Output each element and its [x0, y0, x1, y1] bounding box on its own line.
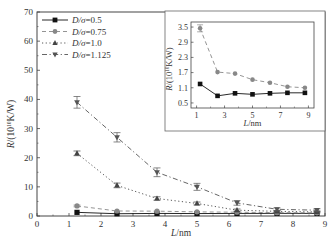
circle-marker	[233, 71, 238, 76]
y-label-unit: K/W)	[6, 100, 17, 122]
circle-marker	[285, 84, 290, 89]
y-tick-label: 70	[24, 7, 34, 17]
inset-frame	[165, 11, 325, 131]
legend-var: D/σ	[71, 15, 86, 25]
inset-x-axis-label: L/nm	[243, 118, 262, 128]
triangle-down-marker	[194, 185, 200, 190]
x-tick-label: 4	[163, 219, 168, 229]
legend-value: =0.75	[85, 27, 106, 37]
legend-value: =1.0	[85, 38, 102, 48]
x-tick-label: 2	[99, 219, 104, 229]
square-marker	[53, 18, 58, 23]
x-tick-label: 3	[131, 219, 136, 229]
inset-y-tick-label: 1.7	[178, 68, 188, 77]
triangle-up-marker	[234, 207, 240, 212]
x-tick-label: 5	[195, 219, 200, 229]
legend: D/σ=0.5D/σ=0.75D/σ=1.0D/σ=1.125	[42, 15, 111, 60]
legend-label: D/σ=1.125	[71, 50, 111, 60]
x-tick-label: 9	[323, 219, 328, 229]
triangle-up-marker	[194, 200, 200, 205]
circle-marker	[74, 203, 79, 208]
y-label-base: 10	[6, 127, 16, 137]
inset-x-tick-label: 9	[306, 111, 310, 120]
circle-marker	[114, 208, 119, 213]
square-marker	[303, 91, 308, 96]
x-axis-label-unit: /nm	[176, 228, 191, 238]
square-marker	[215, 94, 220, 99]
inset-x-tick-label: 3	[223, 111, 227, 120]
square-marker	[250, 92, 255, 97]
legend-label: D/σ=0.5	[71, 15, 102, 25]
circle-marker	[250, 77, 255, 82]
y-tick-label: 40	[24, 94, 34, 104]
y-tick-label: 20	[24, 153, 34, 163]
inset-y-tick-label: 2.3	[178, 53, 188, 62]
y-tick-label: 0	[29, 211, 34, 221]
circle-marker	[303, 85, 308, 90]
legend-value: =0.5	[85, 15, 102, 25]
x-tick-label: 8	[291, 219, 296, 229]
y-tick-label: 30	[24, 124, 34, 134]
triangle-up-marker	[52, 40, 57, 45]
circle-marker	[194, 209, 199, 214]
inset-y-tick-label: 0.5	[178, 99, 188, 108]
legend-label: D/σ=0.75	[71, 27, 107, 37]
x-tick-label: 1	[67, 219, 72, 229]
circle-marker	[268, 80, 273, 85]
y-tick-label: 60	[24, 36, 34, 46]
y-tick-label: 10	[24, 182, 34, 192]
inset-y-tick-label: 1.1	[178, 84, 188, 93]
x-tick-label: 6	[227, 219, 232, 229]
circle-marker	[154, 209, 159, 214]
square-marker	[285, 91, 290, 96]
x-axis-label: L/nm	[170, 228, 192, 238]
inset-y-tick-label: 3.5	[178, 23, 188, 32]
inset-x-tick-label: 1	[195, 111, 199, 120]
triangle-down-marker	[52, 53, 57, 58]
square-marker	[198, 82, 203, 87]
y-tick-label: 50	[24, 65, 34, 75]
legend-value: =1.125	[85, 50, 111, 60]
legend-var: D/σ	[71, 50, 86, 60]
x-tick-label: 7	[259, 219, 264, 229]
circle-marker	[53, 29, 58, 34]
square-marker	[268, 91, 273, 96]
inset-x-label-unit: /nm	[248, 118, 262, 128]
square-marker	[233, 91, 238, 96]
legend-label: D/σ=1.0	[71, 38, 102, 48]
y-axis-label: R/(1010K/W)	[6, 100, 17, 149]
legend-var: D/σ	[71, 38, 86, 48]
inset-y-tick-label: 2.9	[178, 38, 188, 47]
y-label-base: 10	[164, 72, 174, 81]
y-label-unit: K/W)	[164, 47, 174, 67]
x-tick-label: 0	[35, 219, 40, 229]
square-marker	[74, 210, 79, 215]
triangle-up-marker	[154, 195, 160, 200]
chart: 0123456789010203040506070L/nmR/(1010K/W)…	[0, 0, 333, 249]
inset-x-tick-label: 7	[278, 111, 282, 120]
inset-plot: 135790.51.11.72.32.93.5L/nmR/(1010K/W)	[164, 11, 325, 131]
legend-var: D/σ	[71, 27, 86, 37]
circle-marker	[215, 70, 220, 75]
